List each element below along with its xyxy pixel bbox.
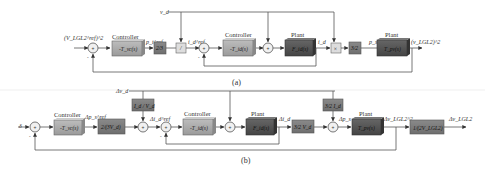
output-label-a: (v_LGL2)^2	[411, 39, 440, 46]
block-shadow	[112, 39, 145, 41]
block-text: -T_vc(s)	[60, 125, 78, 132]
minus-sign: -	[198, 54, 200, 60]
block-shadow	[183, 117, 216, 119]
block-text: F_id(s)	[291, 46, 308, 53]
block-shadow	[213, 117, 216, 135]
block-text: 3/2 V_d	[293, 124, 312, 130]
minus-sign: -	[29, 133, 31, 139]
signal-label: Δp_s	[338, 116, 352, 122]
block-text: 1/(2V_LGL2)	[413, 125, 443, 132]
block-text: ×	[334, 46, 338, 52]
block-text: -T_vc(s)	[119, 46, 137, 53]
block-header: Controller	[54, 111, 82, 118]
plus-sign: +	[332, 124, 335, 130]
block-header: Plant	[291, 31, 305, 38]
block-text: 2/(3V_d)	[101, 124, 121, 131]
block-text: T_pv(s)	[358, 125, 375, 132]
signal-label: Δi_d	[278, 116, 291, 122]
block-shadow	[313, 38, 316, 56]
plus-sign: +	[92, 45, 95, 51]
block-shadow	[274, 117, 277, 135]
block-text: 3/2	[350, 45, 358, 51]
signal-label: p_s	[368, 39, 378, 45]
block-text: -T_id(s)	[190, 125, 208, 132]
block-header: Plant	[359, 110, 373, 117]
block-text: 3/2 I_d	[324, 103, 341, 109]
block-shadow	[253, 38, 256, 56]
signal-label: Δi_d^ref	[149, 116, 171, 122]
plus-sign: +	[229, 124, 232, 130]
output-label-b: Δv_LGL2	[448, 116, 472, 122]
block-text: I_d / V_d	[133, 103, 155, 109]
input-label-a: (V_LGL2^ref)^2	[64, 35, 103, 42]
block-header: Plant	[385, 31, 399, 38]
block-header: Controller	[225, 31, 253, 38]
diagram-b: δ + Controller -T_vc(s) Δp_s^ref 2/(3V_d…	[18, 88, 472, 165]
block-text: F_id(s)	[252, 125, 269, 132]
disturbance-label-b: Δv_d	[115, 88, 129, 94]
block-shadow	[407, 38, 410, 56]
plus-sign: +	[34, 124, 37, 130]
plus-sign: +	[203, 45, 206, 51]
block-header: Controller	[184, 110, 212, 117]
signal-label: Δv_LGL2^2	[383, 116, 413, 122]
block-text: 2/3	[156, 45, 163, 51]
block-shadow	[246, 117, 277, 119]
plus-sign: +	[165, 124, 168, 130]
block-shadow	[285, 38, 316, 40]
block-text: -T_id(s)	[230, 46, 248, 53]
plus-sign: +	[142, 124, 145, 130]
caption-b: (b)	[241, 156, 251, 165]
block-header: Controller	[112, 33, 140, 40]
caption-a: (a)	[232, 78, 241, 87]
minus-sign: -	[87, 54, 89, 60]
plus-sign: +	[267, 45, 270, 51]
block-text: T_pv(s)	[384, 46, 401, 53]
block-shadow	[54, 118, 85, 120]
diagram-a: (V_LGL2^ref)^2 + Controller -T_vc(s) p_t…	[64, 9, 440, 87]
block-shadow	[377, 38, 410, 40]
block-header: Plant	[251, 110, 265, 117]
signal-label: i_d	[318, 39, 327, 45]
block-shadow	[142, 39, 145, 56]
block-shadow	[352, 117, 384, 119]
minus-sign: -	[160, 133, 162, 139]
input-label-b: δ	[19, 123, 22, 129]
control-block-diagram: (V_LGL2^ref)^2 + Controller -T_vc(s) p_t…	[0, 0, 485, 176]
block-shadow	[223, 38, 256, 40]
block-shadow	[82, 118, 85, 135]
